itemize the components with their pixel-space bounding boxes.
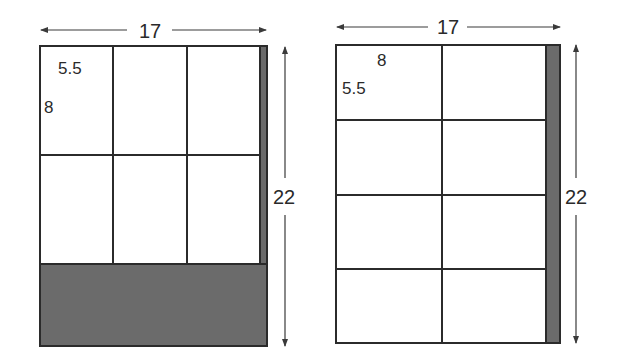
right-waste-strip	[546, 45, 560, 343]
left-diagram: 17 22 5.5 8	[40, 20, 295, 346]
left-width-dimension: 17	[41, 20, 266, 42]
left-height-dimension: 22	[273, 47, 295, 346]
right-cell-width-label: 8	[377, 51, 386, 70]
right-height-label: 22	[565, 186, 587, 208]
diagram-canvas: 17 22 5.5 8 17	[0, 0, 617, 357]
left-width-label: 17	[139, 20, 161, 42]
right-width-label: 17	[437, 16, 459, 38]
right-cell-grid	[336, 45, 546, 343]
right-width-dimension: 17	[337, 16, 560, 38]
left-cell-grid	[40, 46, 267, 264]
left-cell-width-label: 5.5	[58, 59, 82, 78]
left-waste-bottom	[40, 264, 267, 346]
right-diagram: 17 22 8 5.5	[336, 16, 587, 343]
right-cell-height-label: 5.5	[342, 79, 366, 98]
left-height-label: 22	[273, 186, 295, 208]
right-height-dimension: 22	[565, 45, 587, 343]
left-waste-strip	[260, 46, 267, 264]
left-cell-height-label: 8	[44, 98, 53, 117]
